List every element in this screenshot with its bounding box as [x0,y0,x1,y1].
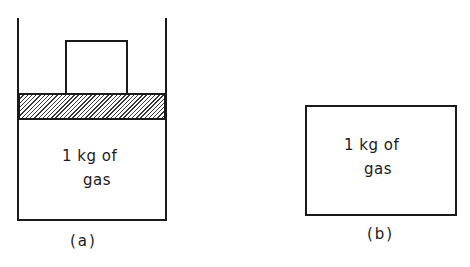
cylinder-bottom [17,219,167,221]
weight-block [65,40,128,95]
piston-hatched [18,93,166,120]
caption-a: (a) [70,232,97,250]
gas-label-a-line2: gas [83,171,111,189]
gas-label-a-line1: 1 kg of [62,147,117,165]
caption-b: (b) [367,225,394,243]
gas-label-b-line1: 1 kg of [344,136,399,154]
gas-label-b-line2: gas [364,160,392,178]
